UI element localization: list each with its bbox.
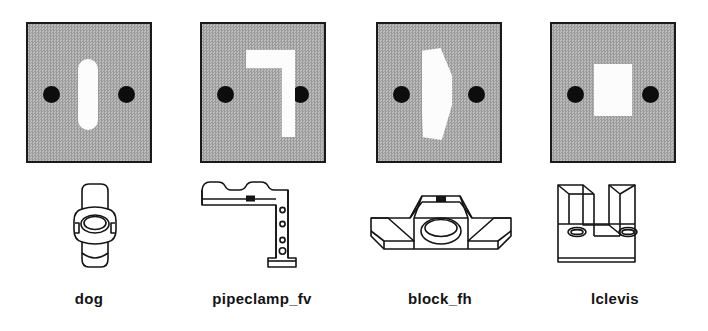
bolt-hole-left — [217, 86, 234, 103]
tile-inner — [28, 24, 150, 161]
bolt-hole-left — [567, 86, 584, 103]
wireframe-drawing-pipeclamp — [190, 177, 306, 273]
range-image-tile-dog[interactable] — [26, 22, 152, 163]
cutout-crescent — [422, 48, 452, 140]
bolt-hole-right — [118, 86, 135, 103]
range-image-tile-block[interactable] — [376, 22, 502, 163]
wireframe-drawing-lclevis — [551, 180, 643, 270]
wireframe-drawing-block — [368, 191, 514, 263]
tile-inner — [378, 24, 500, 161]
cutout-l-bracket — [246, 50, 295, 137]
tile-inner — [202, 24, 324, 161]
part-label-dog: dog — [9, 290, 169, 307]
bolt-hole-left — [43, 86, 60, 103]
bolt-hole-right — [468, 86, 485, 103]
range-image-tile-pipeclamp[interactable] — [200, 22, 326, 163]
part-label-block: block_fh — [360, 290, 520, 307]
figure-canvas: dog pipeclamp_fv block_fh lclevis — [0, 0, 708, 331]
bolt-hole-right — [642, 86, 659, 103]
part-label-pipeclamp: pipeclamp_fv — [182, 290, 342, 307]
tile-inner — [552, 24, 674, 161]
wireframe-drawing-dog — [68, 181, 122, 271]
cutout-vertical-slot — [78, 59, 98, 130]
part-label-lclevis: lclevis — [535, 290, 695, 307]
bolt-hole-left — [393, 86, 410, 103]
range-image-tile-lclevis[interactable] — [550, 22, 676, 163]
cutout-rectangle — [594, 64, 632, 116]
